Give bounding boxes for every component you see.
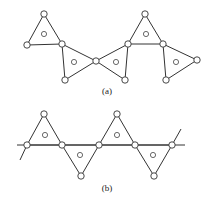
- figure-label-a: (a): [102, 86, 112, 96]
- figure-a: [24, 11, 200, 83]
- vertex-atom: [160, 41, 166, 47]
- triangle: [96, 44, 128, 80]
- vertex-atom: [93, 58, 99, 64]
- center-atom: [113, 59, 118, 64]
- center-atom: [42, 132, 47, 137]
- vertex-atom: [62, 77, 68, 83]
- center-atom: [143, 31, 148, 36]
- vertex-atom: [194, 57, 200, 63]
- vertex-atom: [24, 42, 30, 48]
- center-atom: [114, 132, 119, 137]
- triangle: [163, 44, 197, 80]
- center-atom: [173, 59, 178, 64]
- vertex-atom: [41, 11, 47, 17]
- triangle: [99, 114, 135, 145]
- vertex-atom: [163, 77, 169, 83]
- center-atom: [71, 59, 76, 64]
- triangle: [62, 44, 96, 80]
- vertex-atom: [122, 77, 128, 83]
- vertex-atom: [96, 142, 102, 148]
- vertex-atom: [132, 142, 138, 148]
- center-atom: [41, 31, 46, 36]
- figure-label-b: (b): [102, 183, 113, 193]
- vertex-atom: [41, 111, 47, 117]
- triangle-chain-diagram: [0, 0, 211, 205]
- center-atom: [150, 152, 155, 157]
- vertex-atom: [169, 142, 175, 148]
- vertex-atom: [59, 41, 65, 47]
- vertex-atom: [24, 142, 30, 148]
- triangle: [27, 14, 62, 45]
- vertex-atom: [125, 41, 131, 47]
- vertex-atom: [78, 173, 84, 179]
- triangle: [135, 145, 172, 176]
- triangle: [27, 114, 62, 145]
- vertex-atom: [114, 111, 120, 117]
- vertex-atom: [151, 173, 157, 179]
- center-atom: [77, 152, 82, 157]
- triangle: [128, 14, 163, 44]
- vertex-atom: [59, 142, 65, 148]
- vertex-atom: [142, 11, 148, 17]
- figure-b: [17, 111, 185, 179]
- triangle: [62, 145, 99, 176]
